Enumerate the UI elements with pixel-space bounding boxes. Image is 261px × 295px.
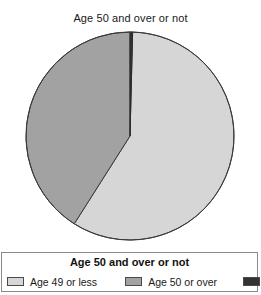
legend-item-missing[interactable]: Missing <box>243 276 261 288</box>
pie-slices <box>26 32 234 240</box>
legend-item-age-50-or-over[interactable]: Age 50 or over <box>125 276 217 288</box>
legend-label-age-49-or-less: Age 49 or less <box>30 276 97 288</box>
legend-label-age-50-or-over: Age 50 or over <box>148 276 217 288</box>
legend-panel: Age 50 and over or not Age 49 or less Ag… <box>1 252 258 292</box>
chart-title: Age 50 and over or not <box>0 12 261 25</box>
pie-plot-area <box>0 26 261 248</box>
legend-title: Age 50 and over or not <box>2 256 257 269</box>
legend-item-age-49-or-less[interactable]: Age 49 or less <box>7 276 97 288</box>
legend-swatch-missing <box>243 277 260 286</box>
pie-svg <box>0 26 261 248</box>
legend-swatch-age-50-or-over <box>125 277 142 286</box>
legend-swatch-age-49-or-less <box>7 277 24 286</box>
legend-items: Age 49 or less Age 50 or over Missing <box>2 273 257 290</box>
pie-chart-figure: Age 50 and over or not Age 50 and over o… <box>0 0 261 295</box>
